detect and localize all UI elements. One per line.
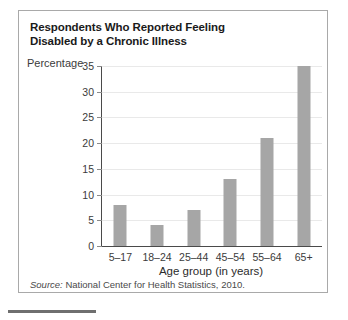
y-axis-label: 15 bbox=[82, 163, 94, 175]
y-axis-tick bbox=[97, 246, 102, 247]
x-axis-label: 18–24 bbox=[142, 251, 171, 263]
chart-title-line-2: Disabled by a Chronic Illness bbox=[30, 34, 310, 48]
source-label: Source: bbox=[30, 279, 63, 290]
bar-group: 5–17 bbox=[102, 66, 139, 246]
bar bbox=[187, 210, 200, 246]
bar bbox=[260, 138, 273, 246]
plot-area: 05101520253035 5–1718–2425–4445–5455–646… bbox=[101, 66, 322, 247]
y-axis-label: 10 bbox=[82, 189, 94, 201]
bar bbox=[150, 225, 163, 246]
bar-group: 18–24 bbox=[139, 66, 176, 246]
chart-title: Respondents Who Reported Feeling Disable… bbox=[30, 20, 310, 48]
bar-group: 45–54 bbox=[212, 66, 249, 246]
figure-panel: Respondents Who Reported Feeling Disable… bbox=[18, 10, 328, 293]
y-axis-label: 30 bbox=[82, 86, 94, 98]
x-axis-label: 45–54 bbox=[216, 251, 245, 263]
y-axis-label: 35 bbox=[82, 60, 94, 72]
y-axis-label: 25 bbox=[82, 111, 94, 123]
bar bbox=[224, 179, 237, 246]
bar-group: 25–44 bbox=[175, 66, 212, 246]
bar bbox=[114, 205, 127, 246]
x-axis-label: 25–44 bbox=[179, 251, 208, 263]
bottom-rule bbox=[8, 310, 96, 313]
bar-group: 65+ bbox=[285, 66, 322, 246]
chart-title-line-1: Respondents Who Reported Feeling bbox=[30, 20, 310, 34]
source-text: National Center for Health Statistics, 2… bbox=[63, 279, 245, 290]
y-axis-label: 20 bbox=[82, 137, 94, 149]
bar bbox=[297, 66, 310, 246]
source-note: Source: National Center for Health Stati… bbox=[30, 279, 245, 290]
x-axis-title: Age group (in years) bbox=[101, 265, 321, 277]
y-axis-label: 5 bbox=[88, 214, 94, 226]
bar-series: 5–1718–2425–4445–5455–6465+ bbox=[102, 66, 322, 246]
x-axis-label: 55–64 bbox=[252, 251, 281, 263]
x-axis-label: 65+ bbox=[295, 251, 313, 263]
y-axis-label: 0 bbox=[88, 240, 94, 252]
bar-group: 55–64 bbox=[249, 66, 286, 246]
x-axis-label: 5–17 bbox=[109, 251, 132, 263]
y-axis-title: Percentage bbox=[27, 57, 83, 69]
